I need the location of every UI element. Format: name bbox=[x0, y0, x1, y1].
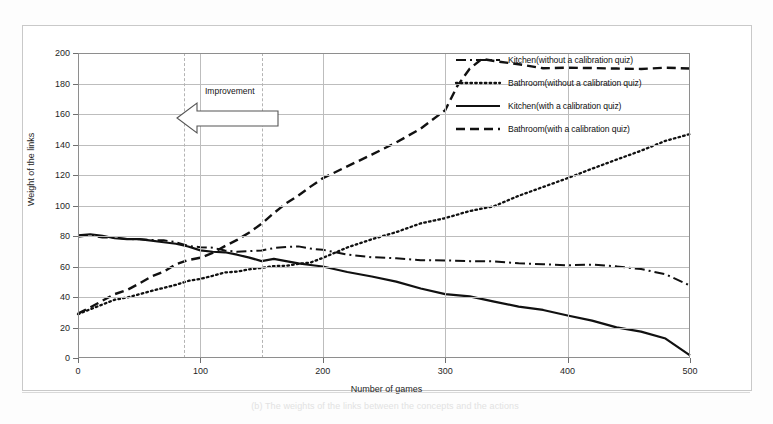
legend-line-sample bbox=[455, 100, 501, 112]
x-axis-tick-label: 300 bbox=[438, 366, 453, 376]
improvement-label: Improvement bbox=[205, 86, 255, 96]
caption-rule bbox=[22, 392, 750, 393]
x-axis-tick-label: 100 bbox=[193, 366, 208, 376]
improvement-arrow-icon bbox=[175, 100, 280, 136]
legend-line-sample bbox=[455, 54, 501, 66]
x-axis-tick bbox=[690, 358, 691, 363]
legend-item[interactable]: Bathroom(with a calibration quiz) bbox=[455, 117, 755, 140]
legend-item[interactable]: Bathroom(without a calibration quiz) bbox=[455, 71, 755, 94]
y-axis-tick-label: 0 bbox=[30, 353, 70, 363]
y-axis-tick-label: 160 bbox=[30, 109, 70, 119]
y-axis-tick-label: 40 bbox=[30, 292, 70, 302]
x-axis-tick-label: 500 bbox=[682, 366, 697, 376]
x-axis-tick bbox=[78, 358, 79, 363]
x-axis-tick-label: 400 bbox=[560, 366, 575, 376]
y-axis-tick-label: 180 bbox=[30, 79, 70, 89]
y-axis-tick-label: 60 bbox=[30, 262, 70, 272]
legend: Kitchen(without a calibration quiz)Bathr… bbox=[455, 48, 755, 140]
y-axis-tick-label: 120 bbox=[30, 170, 70, 180]
legend-label: Bathroom(without a calibration quiz) bbox=[508, 78, 642, 88]
y-axis-tick-label: 200 bbox=[30, 48, 70, 58]
legend-label: Kitchen(without a calibration quiz) bbox=[508, 55, 633, 65]
x-axis-tick bbox=[445, 358, 446, 363]
legend-label: Kitchen(with a calibration quiz) bbox=[508, 101, 621, 111]
x-axis-tick bbox=[568, 358, 569, 363]
y-axis-tick-label: 20 bbox=[30, 323, 70, 333]
x-axis-tick bbox=[200, 358, 201, 363]
legend-item[interactable]: Kitchen(with a calibration quiz) bbox=[455, 94, 755, 117]
figure-page: Weight of the links Number of games 0204… bbox=[0, 0, 773, 424]
figure-caption: (b) The weights of the links between the… bbox=[150, 401, 620, 411]
legend-line-sample bbox=[455, 77, 501, 89]
y-axis-tick-label: 80 bbox=[30, 231, 70, 241]
y-axis-tick-label: 100 bbox=[30, 201, 70, 211]
legend-line-sample bbox=[455, 123, 501, 135]
legend-label: Bathroom(with a calibration quiz) bbox=[508, 124, 630, 134]
legend-item[interactable]: Kitchen(without a calibration quiz) bbox=[455, 48, 755, 71]
x-axis-tick bbox=[323, 358, 324, 363]
x-axis-tick-label: 200 bbox=[315, 366, 330, 376]
y-axis-tick-label: 140 bbox=[30, 140, 70, 150]
x-axis-tick-label: 0 bbox=[75, 366, 80, 376]
